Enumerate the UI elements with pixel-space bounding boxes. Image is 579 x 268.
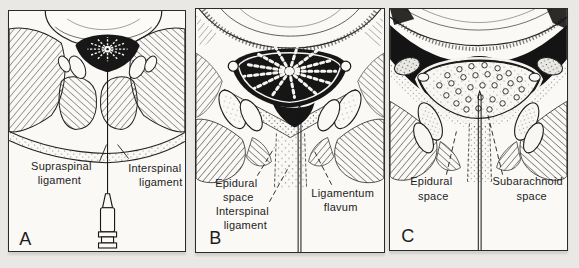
label-subarachnoid-space-line2: space (516, 190, 546, 202)
panel-b: Epidural space Interspinal ligament Liga… (195, 8, 385, 253)
dural-sac (228, 46, 351, 107)
label-interspinal-ligament-line2: ligament (224, 219, 267, 231)
figure-canvas: Supraspinal ligament Interspinal ligamen… (0, 0, 579, 268)
vertebral-body (196, 9, 384, 50)
panel-letter-c: C (401, 226, 414, 246)
label-subarachnoid-space-line1: Subarachnoid (492, 175, 563, 187)
label-epidural-space-line2: space (223, 191, 253, 203)
nerve-root-sleeve-right (341, 61, 351, 71)
needle-hub (99, 194, 117, 248)
nerve-root-sleeve-left (228, 61, 238, 71)
label-supraspinal-ligament-line1: Supraspinal (31, 160, 91, 172)
label-supraspinal-ligament-line2: ligament (38, 174, 81, 186)
label-ligamentum-flavum-line2: flavum (324, 201, 358, 213)
panel-a: Supraspinal ligament Interspinal ligamen… (8, 10, 186, 252)
nerve-root-sleeve-right (529, 73, 540, 81)
panel-letter-a: A (19, 229, 32, 249)
panel-a-illustration: Supraspinal ligament Interspinal ligamen… (9, 11, 185, 251)
label-epidural-space-line1: Epidural (215, 177, 257, 189)
interspinous-ligament-column (466, 123, 492, 181)
label-epidural-space-line1: Epidural (410, 175, 452, 187)
panel-letter-b: B (209, 228, 221, 248)
panel-c-illustration: Epidural space Subarachnoid space C (390, 9, 567, 250)
label-ligamentum-flavum-line1: Ligamentum (311, 187, 374, 199)
label-interspinal-ligament-line1: Interspinal (128, 162, 181, 174)
interspinous-ligament-column (273, 134, 307, 188)
label-interspinal-ligament-line2: ligament (139, 176, 182, 188)
panel-c: Epidural space Subarachnoid space C (389, 8, 568, 251)
fascia-layer (9, 132, 185, 163)
panel-b-illustration: Epidural space Interspinal ligament Liga… (196, 9, 384, 252)
posterior-longitudinal-ligament-stipple (203, 10, 377, 50)
label-epidural-space-line2: space (418, 190, 448, 202)
nerve-root-sleeve-left (418, 73, 429, 81)
label-interspinal-ligament-line1: Interspinal (216, 205, 269, 217)
vertebral-body (390, 9, 567, 49)
